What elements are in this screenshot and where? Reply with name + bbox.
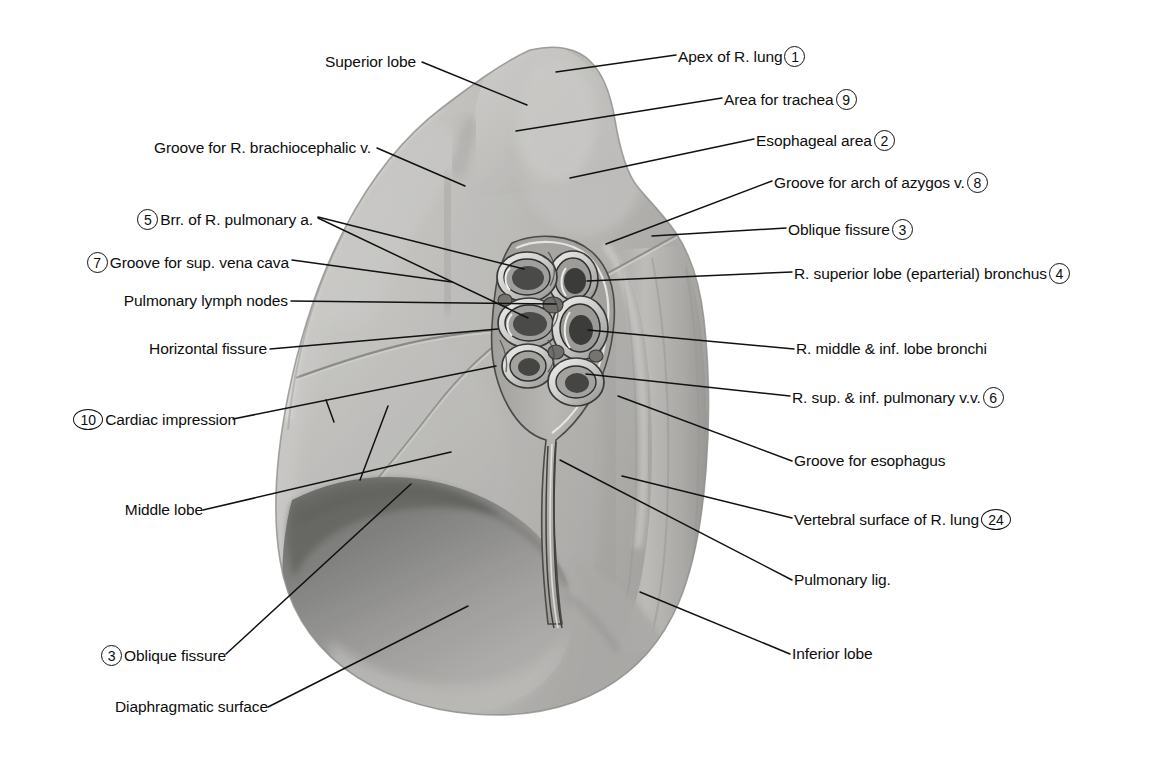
label-text: Groove for sup. vena cava <box>110 255 289 271</box>
label-groove-for-sup-vena-cava: 7Groove for sup. vena cava <box>85 252 289 273</box>
label-area-for-trachea: Area for trachea9 <box>724 89 859 110</box>
label-text: Brr. of R. pulmonary a. <box>160 212 313 228</box>
label-text: Inferior lobe <box>792 646 873 662</box>
label-text: Area for trachea <box>724 92 834 108</box>
label-groove-for-arch-of-azygos: Groove for arch of azygos v.8 <box>774 172 990 193</box>
label-text: Groove for esophagus <box>794 453 945 469</box>
label-r-middle-inf-lobe-bronchi: R. middle & inf. lobe bronchi <box>796 340 987 357</box>
label-text: Apex of R. lung <box>678 49 782 65</box>
label-esophageal-area: Esophageal area2 <box>756 130 897 151</box>
label-oblique-fissure-upper: Oblique fissure3 <box>788 219 915 240</box>
label-cardiac-impression: 10Cardiac impression <box>71 409 236 430</box>
label-horizontal-fissure: Horizontal fissure <box>149 340 267 357</box>
anatomy-figure: Apex of R. lung1 Area for trachea9 Esoph… <box>0 0 1168 771</box>
label-text: Esophageal area <box>756 133 872 149</box>
reference-number: 3 <box>892 219 913 240</box>
reference-number: 3 <box>101 645 122 666</box>
label-text: R. sup. & inf. pulmonary v.v. <box>792 390 981 406</box>
label-text: Middle lobe <box>125 502 203 518</box>
label-text: Groove for arch of azygos v. <box>774 175 965 191</box>
reference-number: 24 <box>981 509 1011 530</box>
label-text: R. middle & inf. lobe bronchi <box>796 341 987 357</box>
reference-number: 5 <box>137 209 158 230</box>
label-middle-lobe: Middle lobe <box>125 501 203 518</box>
reference-number: 10 <box>73 409 103 430</box>
reference-number: 2 <box>874 130 895 151</box>
label-diaphragmatic-surface: Diaphragmatic surface <box>115 698 268 715</box>
label-text: Vertebral surface of R. lung <box>794 512 979 528</box>
label-pulmonary-lig: Pulmonary lig. <box>794 571 891 588</box>
label-text: Superior lobe <box>325 54 416 70</box>
label-text: Groove for R. brachiocephalic v. <box>154 140 371 156</box>
label-text: Oblique fissure <box>788 222 890 238</box>
reference-number: 8 <box>967 172 988 193</box>
label-text: Cardiac impression <box>105 412 236 428</box>
label-groove-for-esophagus: Groove for esophagus <box>794 452 945 469</box>
label-vertebral-surface: Vertebral surface of R. lung24 <box>794 509 1013 530</box>
label-apex-of-r-lung: Apex of R. lung1 <box>678 46 807 67</box>
label-text: Pulmonary lig. <box>794 572 891 588</box>
reference-number: 7 <box>87 252 108 273</box>
label-text: Pulmonary lymph nodes <box>124 293 288 309</box>
label-pulmonary-lymph-nodes: Pulmonary lymph nodes <box>124 292 288 309</box>
label-superior-lobe: Superior lobe <box>325 53 416 70</box>
label-inferior-lobe: Inferior lobe <box>792 645 873 662</box>
label-text: Horizontal fissure <box>149 341 267 357</box>
label-text: R. superior lobe (eparterial) bronchus <box>794 266 1047 282</box>
label-text: Diaphragmatic surface <box>115 699 268 715</box>
label-brr-of-r-pulmonary-a: 5Brr. of R. pulmonary a. <box>135 209 313 230</box>
label-groove-r-brachiocephalic-v: Groove for R. brachiocephalic v. <box>154 139 371 156</box>
reference-number: 4 <box>1049 263 1070 284</box>
label-text: Oblique fissure <box>124 648 226 664</box>
reference-number: 6 <box>983 387 1004 408</box>
label-oblique-fissure-lower: 3Oblique fissure <box>99 645 226 666</box>
label-r-superior-lobe-bronchus: R. superior lobe (eparterial) bronchus4 <box>794 263 1072 284</box>
reference-number: 9 <box>836 89 857 110</box>
reference-number: 1 <box>784 46 805 67</box>
label-r-sup-inf-pulmonary-vv: R. sup. & inf. pulmonary v.v.6 <box>792 387 1006 408</box>
